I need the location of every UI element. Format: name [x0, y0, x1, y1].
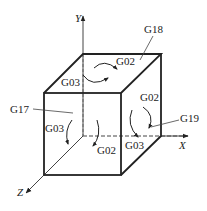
arc-arrow-cw-right	[143, 107, 151, 128]
leader-line-right	[151, 120, 179, 127]
plane-code-front: G17	[10, 103, 29, 115]
top-cw-label: G02	[116, 55, 135, 67]
plane-code-right: G19	[180, 112, 199, 124]
cube-right-face	[121, 54, 161, 175]
leader-line-front	[33, 109, 73, 113]
y-axis-label: Y	[75, 12, 83, 24]
x-axis-label: X	[178, 139, 187, 151]
z-axis	[26, 136, 83, 193]
diagram-canvas: Y X Z G18 G02 G03 G17 G03 G02 G02 G19 G0…	[0, 0, 207, 211]
arc-arrow-cw-top	[94, 63, 117, 69]
arc-arrow-ccw-right	[130, 110, 138, 137]
right-ccw-label: G03	[125, 139, 144, 151]
arc-arrow-ccw-top	[83, 75, 108, 82]
front-cw-label: G02	[97, 144, 116, 156]
arc-arrow-cw-front	[93, 120, 99, 146]
plane-selection-diagram: Y X Z G18 G02 G03 G17 G03 G02 G02 G19 G0…	[0, 0, 207, 211]
arc-arrow-ccw-front	[67, 120, 72, 144]
right-cw-label: G02	[140, 91, 159, 103]
top-ccw-label: G03	[61, 76, 80, 88]
z-axis-label: Z	[17, 186, 24, 198]
leader-line-top	[140, 36, 153, 60]
front-ccw-label: G03	[45, 122, 64, 134]
plane-code-top: G18	[144, 23, 163, 35]
